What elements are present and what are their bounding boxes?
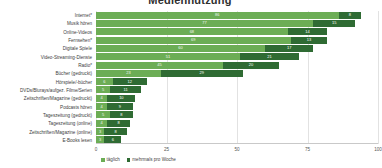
- bar-segment-daily[interactable]: 60: [96, 45, 265, 52]
- bar-value-label: 77: [202, 21, 206, 25]
- bar-row: Radio*4520: [96, 62, 378, 69]
- category-label: Zeitschriften/Magazine (gedruckt): [24, 96, 92, 101]
- stacked-bar[interactable]: 38: [96, 128, 127, 135]
- bar-value-label: 12: [128, 80, 132, 84]
- bar-segment-daily[interactable]: 6: [96, 78, 113, 85]
- category-label: Video-Streaming-Dienste: [41, 54, 92, 59]
- bar-segment-weekly[interactable]: 8: [339, 12, 362, 19]
- bar-segment-weekly[interactable]: 21: [240, 53, 299, 60]
- bar-value-label: 68: [190, 30, 194, 34]
- stacked-bar[interactable]: 511: [96, 86, 141, 93]
- bar-segment-daily[interactable]: 5: [96, 86, 110, 93]
- bar-value-label: 13: [307, 38, 311, 42]
- bar-segment-daily[interactable]: 68: [96, 28, 288, 35]
- legend-item[interactable]: täglich: [101, 157, 120, 163]
- chart-legend: täglichmehrmals pro Woche: [101, 157, 176, 163]
- bar-row: Zeitschriften/Magazine (gedruckt)410: [96, 95, 378, 102]
- bar-segment-daily[interactable]: 4: [96, 120, 107, 127]
- legend-item[interactable]: mehrmals pro Woche: [127, 157, 176, 163]
- plot-area: Internet*868Musik hören7715Online-Videos…: [96, 11, 378, 144]
- bar-value-label: 69: [191, 38, 195, 42]
- bar-segment-weekly[interactable]: 9: [107, 103, 132, 110]
- stacked-bar[interactable]: 2329: [96, 70, 243, 77]
- legend-swatch-weekly: [127, 158, 131, 162]
- bar-value-label: 4: [101, 121, 103, 125]
- category-label: Online-Videos: [63, 29, 92, 34]
- bar-segment-weekly[interactable]: 29: [161, 70, 243, 77]
- stacked-bar[interactable]: 48: [96, 120, 130, 127]
- category-label: Bücher (gedruckt): [55, 71, 92, 76]
- stacked-bar[interactable]: 6017: [96, 45, 313, 52]
- stacked-bar[interactable]: 4520: [96, 62, 279, 69]
- bar-segment-weekly[interactable]: 14: [288, 28, 327, 35]
- category-label: Fernsehen*: [68, 38, 92, 43]
- stacked-bar[interactable]: 410: [96, 95, 135, 102]
- bar-value-label: 11: [124, 88, 128, 92]
- bar-segment-daily[interactable]: 45: [96, 62, 223, 69]
- bar-segment-weekly[interactable]: 11: [110, 86, 141, 93]
- bar-segment-daily[interactable]: 23: [96, 70, 161, 77]
- bar-segment-weekly[interactable]: 12: [113, 78, 147, 85]
- bar-segment-daily[interactable]: 77: [96, 20, 313, 27]
- bar-row: Zeitschriften/Magazine (online)38: [96, 128, 378, 135]
- bar-segment-daily[interactable]: 5: [96, 111, 110, 118]
- category-label: Tageszeitung (gedruckt): [43, 112, 92, 117]
- bar-value-label: 21: [267, 55, 271, 59]
- stacked-bar[interactable]: 5121: [96, 53, 299, 60]
- x-axis-ticks: 0255075100: [96, 147, 378, 155]
- bar-segment-weekly[interactable]: 8: [104, 128, 127, 135]
- category-label: Tageszeitung (online): [48, 121, 92, 126]
- gridline: [378, 11, 379, 144]
- stacked-bar[interactable]: 49: [96, 103, 133, 110]
- bar-value-label: 5: [102, 113, 104, 117]
- x-axis-line: [96, 143, 378, 144]
- category-label: Radio*: [78, 63, 92, 68]
- bar-value-label: 6: [103, 80, 105, 84]
- chart-title-text: Mediennutzung: [0, 0, 380, 6]
- bar-segment-weekly[interactable]: 15: [313, 20, 355, 27]
- bar-value-label: 14: [305, 30, 309, 34]
- bar-value-label: 15: [332, 21, 336, 25]
- bar-row: Fernsehen*6913: [96, 37, 378, 44]
- bar-segment-weekly[interactable]: 17: [265, 45, 313, 52]
- stacked-bar[interactable]: 58: [96, 111, 133, 118]
- bar-value-label: 8: [120, 113, 122, 117]
- x-tick-label: 100: [374, 147, 382, 153]
- stacked-bar[interactable]: 612: [96, 78, 147, 85]
- bar-segment-weekly[interactable]: 20: [223, 62, 279, 69]
- bar-segment-daily[interactable]: 3: [96, 128, 104, 135]
- stacked-bar[interactable]: 6913: [96, 37, 327, 44]
- bar-segment-daily[interactable]: 51: [96, 53, 240, 60]
- bar-segment-weekly[interactable]: 10: [107, 95, 135, 102]
- bar-segment-daily[interactable]: 86: [96, 12, 339, 19]
- bar-rows: Internet*868Musik hören7715Online-Videos…: [96, 11, 378, 144]
- bar-segment-weekly[interactable]: 8: [110, 111, 133, 118]
- category-label: Internet*: [75, 13, 92, 18]
- bar-segment-weekly[interactable]: 8: [107, 120, 130, 127]
- bar-segment-daily[interactable]: 4: [96, 95, 107, 102]
- bar-value-label: 9: [119, 105, 121, 109]
- bar-row: Musik hören7715: [96, 20, 378, 27]
- bar-value-label: 8: [349, 13, 351, 17]
- bar-row: Internet*868: [96, 12, 378, 19]
- bar-value-label: 20: [249, 63, 253, 67]
- bar-value-label: 8: [117, 121, 119, 125]
- stacked-bar[interactable]: 868: [96, 12, 361, 19]
- bar-value-label: 6: [112, 138, 114, 142]
- bar-value-label: 3: [99, 130, 101, 134]
- legend-swatch-daily: [101, 158, 105, 162]
- stacked-bar[interactable]: 6814: [96, 28, 327, 35]
- x-tick-label: 75: [305, 147, 310, 153]
- bar-row: DVDs/Blurays/aufgez. Filme/Serien511: [96, 86, 378, 93]
- bar-segment-daily[interactable]: 4: [96, 103, 107, 110]
- bar-segment-weekly[interactable]: 13: [291, 37, 328, 44]
- stacked-bar[interactable]: 7715: [96, 20, 355, 27]
- bar-row: Hörspiele/-bücher612: [96, 78, 378, 85]
- category-label: Zeitschriften/Magazine (online): [29, 129, 92, 134]
- x-tick-label: 50: [234, 147, 239, 153]
- bar-row: Podcasts hören49: [96, 103, 378, 110]
- category-label: E-Books lesen: [62, 137, 92, 142]
- bar-segment-daily[interactable]: 69: [96, 37, 291, 44]
- bar-value-label: 23: [126, 71, 130, 75]
